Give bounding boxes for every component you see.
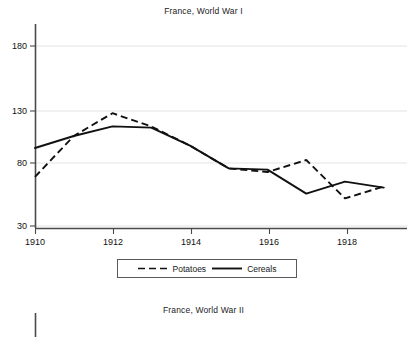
x-tick-label-1910: 1910 bbox=[25, 237, 45, 247]
y-tick-label-130: 130 bbox=[12, 106, 27, 116]
y-tick-label-180: 180 bbox=[12, 41, 27, 51]
legend-swatch-dashed-icon bbox=[138, 264, 168, 273]
x-tick-label-1916: 1916 bbox=[259, 237, 279, 247]
gridlines bbox=[35, 46, 407, 226]
y-axis: 180 130 80 30 bbox=[12, 24, 36, 231]
x-tick-label-1912: 1912 bbox=[103, 237, 123, 247]
x-tick-label-1918: 1918 bbox=[337, 237, 357, 247]
legend-label-cereals: Cereals bbox=[247, 264, 276, 274]
figure-container: France, World War I 180 130 80 30 bbox=[0, 0, 407, 337]
series-line-potatoes bbox=[35, 113, 384, 198]
chart-legend: Potatoes Cereals bbox=[117, 259, 297, 278]
x-tick-label-1914: 1914 bbox=[181, 237, 201, 247]
x-axis: 1910 1912 1914 1916 1918 bbox=[25, 229, 407, 248]
legend-label-potatoes: Potatoes bbox=[173, 264, 207, 274]
y-tick-label-80: 80 bbox=[17, 158, 27, 168]
line-chart-ww1: 180 130 80 30 1910 1912 1914 1916 1918 bbox=[0, 0, 407, 250]
series-line-cereals bbox=[35, 126, 384, 193]
legend-entry-potatoes: Potatoes bbox=[138, 264, 207, 274]
legend-entry-cereals: Cereals bbox=[212, 264, 276, 274]
chart-title-ww2: France, World War II bbox=[0, 305, 407, 315]
legend-swatch-solid-icon bbox=[212, 264, 242, 273]
y-tick-label-30: 30 bbox=[17, 221, 27, 231]
